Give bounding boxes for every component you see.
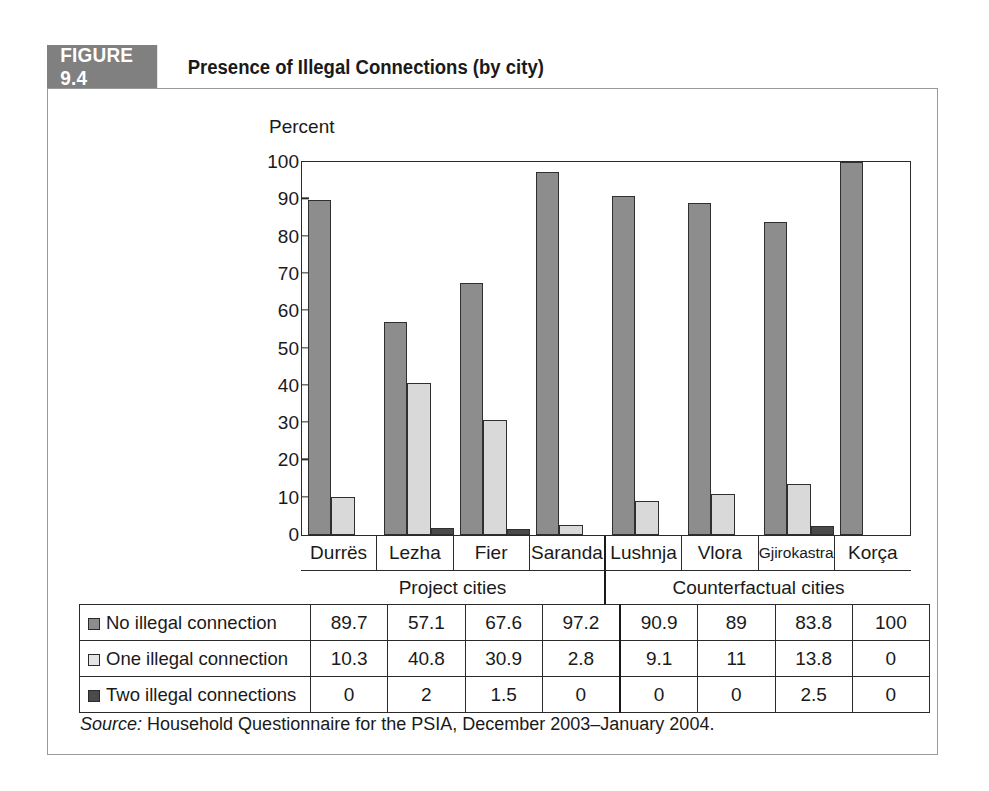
bar-group <box>834 162 910 535</box>
table-cell: 67.6 <box>465 605 542 641</box>
table-cell: 57.1 <box>388 605 465 641</box>
table-cell: 0 <box>698 677 775 713</box>
x-axis-label-korça: Korça <box>835 536 911 570</box>
bar-group <box>378 162 454 535</box>
figure-number-badge: FIGURE 9.4 <box>47 45 157 89</box>
y-axis-tick-label: 40 <box>255 375 299 394</box>
legend-label-text: Two illegal connections <box>106 684 296 705</box>
y-axis-tick-label: 90 <box>255 189 299 208</box>
bar-group <box>758 162 834 535</box>
table-cell: 2.5 <box>775 677 852 713</box>
table-cell: 0 <box>852 641 929 677</box>
y-axis-tick-label: 100 <box>255 152 299 171</box>
legend-swatch-icon <box>88 690 100 702</box>
legend-row-label: Two illegal connections <box>80 677 311 713</box>
source-note: Source: Household Questionnaire for the … <box>80 714 714 735</box>
table-cell: 0 <box>542 677 620 713</box>
x-axis-label-lezha: Lezha <box>377 536 453 570</box>
bar-groups <box>302 162 910 535</box>
table-cell: 90.9 <box>620 605 698 641</box>
bar-1 <box>559 525 582 535</box>
table-cell: 1.5 <box>465 677 542 713</box>
source-text: Household Questionnaire for the PSIA, De… <box>142 714 714 734</box>
x-axis-label-durrës: Durrës <box>301 536 377 570</box>
y-axis-tick-label: 20 <box>255 450 299 469</box>
legend-swatch-icon <box>88 618 100 630</box>
legend-row-label: One illegal connection <box>80 641 311 677</box>
bar-0 <box>384 322 407 535</box>
table-row: No illegal connection89.757.167.697.290.… <box>80 605 930 641</box>
table-row: Two illegal connections021.50002.50 <box>80 677 930 713</box>
x-axis-label-fier: Fier <box>454 536 530 570</box>
y-axis-tick-label: 50 <box>255 338 299 357</box>
legend-label-text: One illegal connection <box>106 648 288 669</box>
table-cell: 0 <box>311 677 388 713</box>
data-table-body: No illegal connection89.757.167.697.290.… <box>80 605 930 713</box>
y-axis-tick-label: 70 <box>255 263 299 282</box>
bar-1 <box>635 501 658 535</box>
bar-group <box>454 162 530 535</box>
bar-1 <box>407 383 430 535</box>
bar-1 <box>787 484 810 535</box>
y-axis: 1009080706050403020100 <box>244 161 299 536</box>
source-label: Source: <box>80 714 142 734</box>
table-cell: 40.8 <box>388 641 465 677</box>
table-cell: 97.2 <box>542 605 620 641</box>
table-cell: 30.9 <box>465 641 542 677</box>
x-axis-label-lushnja: Lushnja <box>606 536 682 570</box>
x-axis-label-gjirokastra: Gjirokastra <box>759 536 835 570</box>
legend-row-label: No illegal connection <box>80 605 311 641</box>
bar-group <box>606 162 682 535</box>
group-label: Project cities <box>301 571 606 604</box>
group-label: Counterfactual cities <box>606 571 911 604</box>
table-cell: 13.8 <box>775 641 852 677</box>
bar-1 <box>483 420 506 535</box>
table-cell: 0 <box>852 677 929 713</box>
bar-0 <box>764 222 787 535</box>
table-cell: 89.7 <box>311 605 388 641</box>
y-axis-tick-label: 60 <box>255 301 299 320</box>
bar-2 <box>431 528 454 535</box>
x-axis-label-saranda: Saranda <box>530 536 606 570</box>
bar-group <box>530 162 606 535</box>
table-cell: 2 <box>388 677 465 713</box>
table-cell: 2.8 <box>542 641 620 677</box>
table-cell: 100 <box>852 605 929 641</box>
figure-title: Presence of Illegal Connections (by city… <box>163 45 544 89</box>
y-axis-tick-label: 10 <box>255 487 299 506</box>
figure-header: FIGURE 9.4 Presence of Illegal Connectio… <box>47 45 564 89</box>
table-cell: 11 <box>698 641 775 677</box>
figure-frame: Percent 1009080706050403020100 DurrësLez… <box>47 88 938 755</box>
y-axis-title: Percent <box>269 116 334 138</box>
bar-0 <box>308 200 331 535</box>
chart-area: Percent 1009080706050403020100 DurrësLez… <box>48 89 939 756</box>
group-band-row: Project citiesCounterfactual cities <box>301 571 911 604</box>
x-axis-label-vlora: Vlora <box>682 536 758 570</box>
legend-swatch-icon <box>88 654 100 666</box>
table-cell: 89 <box>698 605 775 641</box>
y-axis-tick-label: 80 <box>255 226 299 245</box>
bar-0 <box>612 196 635 535</box>
bar-0 <box>688 203 711 535</box>
legend-label-text: No illegal connection <box>106 612 277 633</box>
bar-0 <box>460 283 483 535</box>
bar-2 <box>811 526 834 535</box>
bar-0 <box>536 172 559 535</box>
table-row: One illegal connection10.340.830.92.89.1… <box>80 641 930 677</box>
y-axis-tick-label: 0 <box>255 525 299 544</box>
bar-group <box>302 162 378 535</box>
bar-group <box>682 162 758 535</box>
bar-0 <box>840 162 863 535</box>
bar-1 <box>331 497 354 535</box>
table-cell: 10.3 <box>311 641 388 677</box>
bar-1 <box>711 494 734 535</box>
y-axis-tick-label: 30 <box>255 413 299 432</box>
table-cell: 83.8 <box>775 605 852 641</box>
x-axis-category-row: DurrësLezhaFierSarandaLushnjaVloraGjirok… <box>301 536 911 571</box>
table-cell: 9.1 <box>620 641 698 677</box>
table-cell: 0 <box>620 677 698 713</box>
bar-2 <box>507 529 530 535</box>
data-table: No illegal connection89.757.167.697.290.… <box>79 604 930 713</box>
